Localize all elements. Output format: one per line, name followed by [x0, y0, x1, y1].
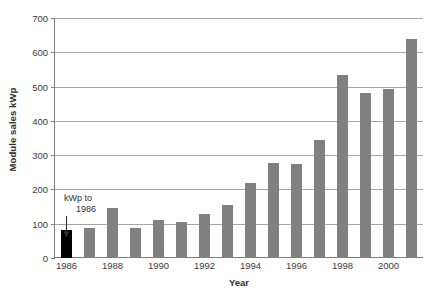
y-axis-tick-label: 0 [43, 253, 48, 264]
y-axis-tick-label: 200 [32, 184, 48, 195]
y-axis-tick-label: 700 [32, 13, 48, 24]
y-axis-tick-labels: 0100200300400500600700 [24, 0, 52, 304]
x-axis-tick-label: 2000 [378, 260, 399, 271]
bar-1998 [337, 75, 347, 258]
bar-1987 [84, 228, 94, 258]
x-axis-tick-labels: 19861988199019921994199619982000 [55, 260, 423, 276]
x-axis-tick-label: 1986 [56, 260, 77, 271]
bar-1990 [153, 220, 163, 258]
y-axis-tick-label: 600 [32, 47, 48, 58]
bar-1994 [245, 183, 255, 258]
y-axis-title: Module sales kWp [0, 0, 26, 258]
x-axis-tick-label: 1992 [194, 260, 215, 271]
bar-1992 [199, 214, 209, 258]
bar-1995 [268, 163, 278, 258]
bar-1996 [291, 164, 301, 258]
x-axis-tick-label: 1996 [286, 260, 307, 271]
bar-1989 [130, 228, 140, 258]
x-axis-tick-label: 1988 [102, 260, 123, 271]
annotation-arrow-icon [62, 216, 71, 238]
bar-1997 [314, 140, 324, 258]
y-axis-title-text: Module sales kWp [8, 87, 19, 171]
y-axis-tick-label: 500 [32, 81, 48, 92]
bars-layer [55, 18, 423, 258]
y-axis-tick [51, 258, 55, 259]
x-axis-tick-label: 1990 [148, 260, 169, 271]
x-axis-title: Year [55, 277, 423, 288]
plot-area [55, 18, 423, 258]
bar-2001 [406, 39, 416, 258]
y-axis-tick-label: 300 [32, 150, 48, 161]
bar-1991 [176, 222, 186, 258]
x-axis-tick-label: 1998 [332, 260, 353, 271]
annotation-line-1: kWp to [62, 193, 136, 204]
bar-1999 [360, 93, 370, 258]
y-axis-tick-label: 400 [32, 115, 48, 126]
bar-1988 [107, 208, 117, 258]
annotation-line-2: 1986 [62, 204, 136, 215]
bar-1993 [222, 205, 232, 258]
y-axis-tick-label: 100 [32, 218, 48, 229]
chart-annotation: kWp to 1986 [62, 193, 136, 215]
bar-2000 [383, 89, 393, 258]
x-axis-tick-label: 1994 [240, 260, 261, 271]
bar-chart: Module sales kWp 0100200300400500600700 … [0, 0, 432, 304]
